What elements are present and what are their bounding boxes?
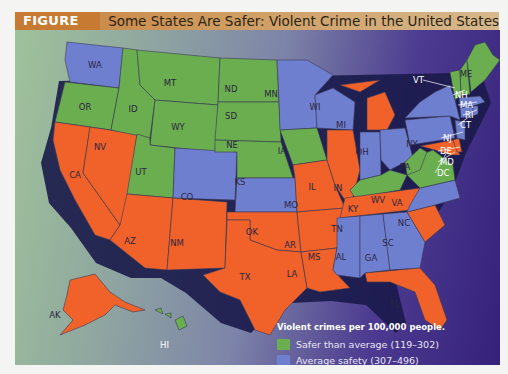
label-tn: TN	[330, 224, 343, 234]
label-ia: IA	[278, 146, 287, 156]
label-ky: KY	[348, 204, 359, 214]
label-mi: MI	[336, 120, 346, 130]
label-hi: HI	[160, 340, 169, 350]
label-ne: NE	[226, 140, 238, 150]
legend-title: Violent crimes per 100,000 people.	[277, 322, 497, 332]
legend-item-average: Average safety (307–496)	[277, 352, 497, 365]
label-wa: WA	[88, 60, 102, 70]
label-al: AL	[336, 252, 347, 262]
legend-item-safer: Safer than average (119–302)	[277, 336, 497, 352]
swatch-green-icon	[277, 339, 290, 350]
label-mn: MN	[264, 89, 278, 99]
label-nv: NV	[94, 142, 106, 152]
label-wy: WY	[171, 122, 185, 132]
label-ok: OK	[246, 227, 259, 237]
label-oh: OH	[355, 147, 368, 157]
label-dc: DC	[437, 168, 450, 178]
label-sc: SC	[382, 238, 393, 248]
label-md: MD	[440, 157, 454, 167]
label-ct: CT	[460, 120, 472, 130]
label-nj: NJ	[443, 133, 452, 143]
state-nm	[167, 198, 227, 270]
map-svg: WA OR CA NV ID MT WY UT AZ CO NM ND SD N…	[15, 30, 500, 365]
label-ks: KS	[235, 177, 246, 187]
label-ar: AR	[284, 240, 296, 250]
label-nd: ND	[225, 84, 238, 94]
label-va: VA	[391, 198, 402, 208]
label-nc: NC	[398, 218, 410, 228]
label-ms: MS	[308, 252, 321, 262]
label-ga: GA	[365, 253, 378, 263]
figure-title: Some States Are Safer: Violent Crime in …	[108, 13, 499, 29]
label-ma: MA	[460, 100, 473, 110]
figure-title-bar: FIGURE 6.1 Some States Are Safer: Violen…	[15, 12, 499, 30]
label-ca: CA	[69, 170, 81, 180]
label-in: IN	[334, 183, 343, 193]
label-la: LA	[287, 269, 298, 279]
legend-label-safer: Safer than average (119–302)	[296, 339, 439, 350]
label-il: IL	[308, 182, 316, 192]
state-hi	[155, 308, 187, 330]
label-mt: MT	[164, 78, 177, 88]
label-mo: MO	[284, 200, 298, 210]
label-co: CO	[181, 192, 194, 202]
label-wv: WV	[371, 195, 385, 205]
label-nm: NM	[170, 238, 184, 248]
label-id: ID	[128, 104, 138, 114]
label-pa: PA	[400, 162, 411, 172]
label-fl: FL	[390, 299, 400, 309]
us-choropleth-map: WA OR CA NV ID MT WY UT AZ CO NM ND SD N…	[15, 30, 500, 365]
label-or: OR	[79, 102, 92, 112]
label-tx: TX	[238, 272, 250, 282]
state-sd	[215, 102, 281, 142]
label-ny: NY	[406, 139, 418, 149]
figure-label: FIGURE 6.1	[15, 12, 100, 30]
label-me: ME	[460, 69, 473, 79]
label-wi: WI	[310, 102, 321, 112]
map-legend: Violent crimes per 100,000 people. Safer…	[277, 322, 497, 365]
label-ak: AK	[49, 310, 61, 320]
label-sd: SD	[225, 111, 237, 121]
label-az: AZ	[124, 236, 136, 246]
swatch-blue-icon	[277, 355, 290, 366]
label-ut: UT	[135, 167, 147, 177]
state-ak	[60, 274, 145, 335]
legend-label-average: Average safety (307–496)	[296, 355, 419, 366]
